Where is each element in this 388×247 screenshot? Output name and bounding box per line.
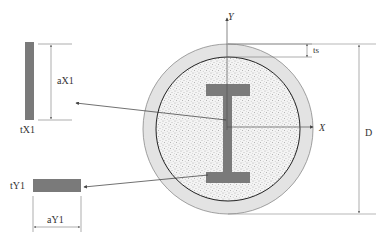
- x-axis-label: X: [319, 123, 325, 133]
- d-label: D: [365, 128, 372, 138]
- ts-label: ts: [313, 46, 319, 55]
- top-flange: [206, 84, 250, 96]
- ty1-label: tY1: [10, 181, 25, 191]
- tx1-label: tX1: [20, 125, 35, 135]
- cross-section-diagram: [0, 0, 388, 247]
- web-plate: [33, 179, 81, 192]
- flange-plate: [25, 42, 34, 120]
- ay1-label: aY1: [47, 215, 64, 225]
- bottom-flange: [206, 172, 250, 183]
- ax1-label: aX1: [57, 76, 74, 86]
- y-axis-label: Y: [228, 12, 234, 22]
- web: [223, 96, 232, 172]
